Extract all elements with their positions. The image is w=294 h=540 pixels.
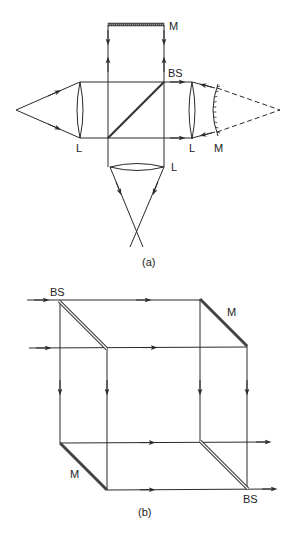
arrow-output-left (116, 182, 120, 192)
mirror-top-right (200, 299, 247, 346)
label-mirror-bottom: M (70, 468, 79, 480)
left-lens (77, 82, 83, 138)
figure-b: BS M M BS (b) (27, 286, 274, 518)
third-horizontal-beam (60, 442, 268, 443)
label-bs-top: BS (50, 286, 65, 298)
optics-diagram: M BS L L M L (a) (0, 0, 294, 540)
beam-splitter-top-left (59, 301, 107, 349)
label-mirror-top: M (227, 306, 236, 318)
virtual-ray-bottom (217, 110, 280, 132)
label-curved-mirror: M (214, 142, 223, 154)
arrow-mirror-bottom (203, 133, 212, 135)
output-ray-right (130, 167, 164, 247)
arrow-mirror-top (203, 85, 212, 87)
top-mirror (108, 23, 164, 26)
arrow-source-top (48, 92, 58, 96)
caption-b: (b) (138, 506, 151, 518)
figure-a: M BS L L M L (a) (16, 20, 280, 268)
beam-splitter (108, 82, 164, 138)
bottom-output-beam (107, 489, 273, 490)
virtual-ray-top (217, 88, 280, 110)
arrow-output-right (154, 182, 158, 192)
label-left-lens: L (76, 142, 82, 154)
label-bs-bottom: BS (243, 493, 258, 505)
bottom-lens (110, 164, 164, 171)
caption-a: (a) (142, 256, 155, 268)
label-right-lens: L (189, 142, 195, 154)
right-lens (189, 82, 195, 139)
beam-splitter-bottom-right (200, 441, 248, 489)
label-top-mirror: M (169, 20, 178, 32)
label-bottom-lens: L (171, 161, 177, 173)
second-input-beam (29, 347, 247, 348)
mirror-bottom-left (60, 443, 107, 490)
arrow-source-bottom (48, 124, 58, 128)
label-beam-splitter: BS (168, 67, 183, 79)
curved-mirror (213, 84, 220, 136)
output-ray-left (110, 167, 143, 247)
